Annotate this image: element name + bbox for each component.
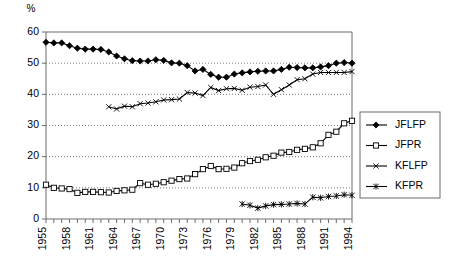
data-point-jflfp	[278, 66, 284, 72]
x-tick-label: 1982	[248, 227, 260, 251]
data-point-jflfp	[255, 68, 261, 74]
data-point-jflfp	[90, 46, 96, 52]
data-point-jfpr	[240, 161, 245, 166]
data-point-jfpr	[145, 182, 150, 187]
data-point-jflfp	[114, 53, 120, 59]
data-point-jfpr	[294, 147, 299, 152]
x-tick-label: 1970	[154, 227, 166, 251]
data-point-jfpr	[106, 190, 111, 195]
data-point-jflfp	[74, 45, 80, 51]
series-jflfp	[43, 39, 355, 80]
data-point-jfpr	[59, 186, 64, 191]
data-point-jflfp	[270, 68, 276, 74]
data-point-jflfp	[43, 39, 49, 45]
data-point-jfpr	[98, 190, 103, 195]
y-tick-label: 50	[27, 56, 39, 68]
data-point-jfpr	[247, 158, 252, 163]
data-point-jflfp	[161, 57, 167, 63]
data-point-kflfp	[287, 82, 292, 87]
legend-label-jfpr: JFPR	[395, 138, 422, 150]
data-point-jflfp	[263, 68, 269, 74]
data-point-jflfp	[98, 46, 104, 52]
data-point-jflfp	[153, 57, 159, 63]
data-point-jfpr	[334, 129, 339, 134]
data-point-jfpr	[224, 166, 229, 171]
data-point-jfpr	[153, 181, 158, 186]
data-point-jflfp	[223, 74, 229, 80]
data-point-jflfp	[168, 60, 174, 66]
data-point-jflfp	[231, 71, 237, 77]
data-point-jflfp	[184, 63, 190, 69]
data-point-jfpr	[255, 157, 260, 162]
data-point-jfpr	[75, 190, 80, 195]
data-point-jfpr	[208, 163, 213, 168]
data-point-jfpr	[51, 185, 56, 190]
data-point-jfpr	[310, 145, 315, 150]
data-point-jflfp	[294, 64, 300, 70]
data-point-jfpr	[232, 165, 237, 170]
data-point-jflfp	[59, 40, 65, 46]
y-tick-label: 0	[33, 212, 39, 224]
data-point-jflfp	[239, 70, 245, 76]
data-point-jflfp	[341, 59, 347, 65]
x-tick-label: 1976	[201, 227, 213, 251]
x-tick-label: 1973	[177, 227, 189, 251]
data-point-jfpr	[90, 189, 95, 194]
data-point-jfpr	[122, 188, 127, 193]
data-point-jflfp	[216, 74, 222, 80]
x-tick-label: 1958	[60, 227, 72, 251]
data-point-jfpr	[326, 132, 331, 137]
series-kfpr	[239, 192, 354, 212]
data-point-jfpr	[83, 189, 88, 194]
x-tick-label: 1961	[83, 227, 95, 251]
data-point-jfpr	[318, 141, 323, 146]
data-point-jfpr	[43, 182, 48, 187]
data-point-jfpr	[271, 153, 276, 158]
data-point-jflfp	[192, 68, 198, 74]
data-point-jflfp	[121, 56, 127, 62]
data-point-jflfp	[208, 71, 214, 77]
data-point-jfpr	[130, 187, 135, 192]
data-point-jfpr	[169, 178, 174, 183]
y-tick-label: 20	[27, 149, 39, 161]
data-point-jflfp	[349, 60, 355, 66]
data-point-jflfp	[200, 66, 206, 72]
data-point-kflfp	[279, 87, 284, 92]
data-point-jflfp	[310, 65, 316, 71]
data-point-jfpr	[287, 149, 292, 154]
data-point-jflfp	[333, 60, 339, 66]
data-point-jflfp	[325, 63, 331, 69]
data-point-jfpr	[192, 172, 197, 177]
x-tick-label: 1988	[295, 227, 307, 251]
legend-label-jflfp: JFLFP	[395, 118, 426, 130]
data-point-jflfp	[286, 64, 292, 70]
data-point-kflfp	[208, 85, 213, 90]
chart-container: %010203040506019551958196119641967197019…	[0, 0, 455, 271]
y-tick-label: 10	[27, 181, 39, 193]
y-axis-unit-label: %	[27, 3, 36, 14]
data-point-jflfp	[51, 40, 57, 46]
data-point-jflfp	[82, 46, 88, 52]
y-tick-label: 30	[27, 118, 39, 130]
data-point-jfpr	[161, 180, 166, 185]
x-tick-label: 1964	[107, 227, 119, 251]
x-tick-label: 1991	[318, 227, 330, 251]
x-tick-label: 1985	[271, 227, 283, 251]
data-point-jfpr	[114, 188, 119, 193]
data-point-jflfp	[176, 60, 182, 66]
line-chart: %010203040506019551958196119641967197019…	[0, 0, 455, 271]
y-tick-label: 40	[27, 87, 39, 99]
data-point-jflfp	[302, 65, 308, 71]
data-point-jflfp	[247, 69, 253, 75]
data-point-jfpr	[279, 150, 284, 155]
x-tick-label: 1955	[36, 227, 48, 251]
legend-label-kfpr: KFPR	[395, 179, 423, 191]
x-tick-label: 1979	[224, 227, 236, 251]
data-point-jfpr	[349, 118, 354, 123]
data-point-jfpr	[302, 146, 307, 151]
x-tick-label: 1994	[342, 227, 354, 251]
legend-marker-jfpr	[373, 143, 378, 148]
data-point-jflfp	[106, 49, 112, 55]
data-point-jfpr	[138, 181, 143, 186]
data-point-jfpr	[185, 176, 190, 181]
